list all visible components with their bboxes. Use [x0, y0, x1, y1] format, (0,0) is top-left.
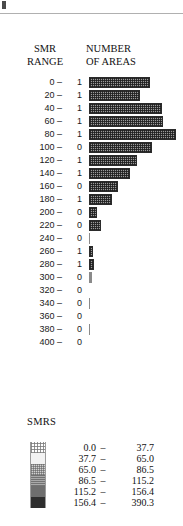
histogram-bar	[89, 77, 150, 88]
smr-range-header: SMR RANGE	[14, 42, 76, 68]
smr-range-label: 80 –	[0, 128, 62, 141]
histogram-bar	[89, 324, 90, 335]
histogram-bar	[89, 90, 140, 101]
bar-track	[89, 77, 183, 88]
bar-track	[89, 142, 183, 153]
bar-track	[89, 90, 183, 101]
smr-range-label: 180 –	[0, 193, 62, 206]
area-count-label: 0	[64, 141, 82, 154]
area-count-label: 1	[64, 89, 82, 102]
legend-range-dash: –	[96, 442, 110, 453]
legend-range-to: 115.2	[110, 475, 154, 486]
legend-range-dash: –	[96, 464, 110, 475]
bar-track	[89, 129, 183, 140]
area-count-label: 0	[64, 206, 82, 219]
histogram-bar	[89, 142, 152, 153]
legend-title: SMRS	[27, 416, 56, 427]
legend-range-dash: –	[96, 486, 110, 497]
histogram-bar	[89, 207, 97, 218]
histogram-row: 20 –1	[0, 89, 183, 102]
legend-swatch-column	[30, 442, 46, 508]
legend-range-to: 37.7	[110, 442, 154, 453]
smr-range-label: 20 –	[0, 89, 62, 102]
smr-range-label: 320 –	[0, 284, 62, 297]
area-count-label: 0	[64, 297, 82, 310]
figure-root: SMR RANGE NUMBER OF AREAS 0 –120 –140 –1…	[0, 0, 183, 526]
legend-class-row: 156.4–390.3	[52, 497, 183, 508]
smr-range-label: 340 –	[0, 297, 62, 310]
histogram-row: 360 –0	[0, 310, 183, 323]
histogram-rows: 0 –120 –140 –160 –180 –1100 –0120 –1140 …	[0, 76, 183, 349]
legend-range-from: 37.7	[52, 453, 96, 464]
bar-track	[89, 298, 183, 309]
smr-range-label: 140 –	[0, 167, 62, 180]
bar-track	[89, 155, 183, 166]
smr-range-header-line1: SMR	[14, 42, 76, 55]
histogram-row: 40 –1	[0, 102, 183, 115]
bar-track	[89, 116, 183, 127]
smr-range-label: 160 –	[0, 180, 62, 193]
legend-swatch	[30, 475, 46, 486]
smr-range-label: 100 –	[0, 141, 62, 154]
area-count-label: 1	[64, 154, 82, 167]
legend-class-row: 0.0–37.7	[52, 442, 183, 453]
area-count-label: 0	[64, 336, 82, 349]
bar-track	[89, 220, 183, 231]
histogram-row: 120 –1	[0, 154, 183, 167]
area-count-label: 1	[64, 193, 82, 206]
histogram-row: 320 –0	[0, 284, 183, 297]
histogram-row: 340 –0	[0, 297, 183, 310]
legend-range-to: 156.4	[110, 486, 154, 497]
area-count-label: 0	[64, 271, 82, 284]
page-corner-mark	[2, 1, 6, 9]
bar-track	[89, 337, 183, 348]
bar-track	[89, 246, 183, 257]
legend-class-row: 37.7–65.0	[52, 453, 183, 464]
number-of-areas-header-line1: NUMBER	[86, 42, 178, 55]
smr-range-label: 380 –	[0, 323, 62, 336]
histogram-bar	[89, 298, 90, 309]
legend-swatch	[30, 453, 46, 464]
legend-range-from: 65.0	[52, 464, 96, 475]
histogram-bar	[89, 116, 163, 127]
smr-range-label: 300 –	[0, 271, 62, 284]
histogram-bar	[89, 181, 118, 192]
bar-track	[89, 207, 183, 218]
histogram-row: 180 –1	[0, 193, 183, 206]
area-count-label: 1	[64, 128, 82, 141]
bar-track	[89, 194, 183, 205]
histogram-bar	[89, 272, 92, 283]
smr-range-label: 200 –	[0, 206, 62, 219]
histogram-row: 400 –0	[0, 336, 183, 349]
legend-swatch	[30, 497, 46, 508]
histogram-row: 160 –0	[0, 180, 183, 193]
histogram-row: 280 –1	[0, 258, 183, 271]
histogram-row: 300 –0	[0, 271, 183, 284]
histogram-row: 380 –0	[0, 323, 183, 336]
number-of-areas-header-line2: OF AREAS	[86, 55, 178, 68]
area-count-label: 0	[64, 323, 82, 336]
legend-swatch	[30, 486, 46, 497]
smr-range-label: 360 –	[0, 310, 62, 323]
bar-track	[89, 181, 183, 192]
bar-track	[89, 272, 183, 283]
legend-range-dash: –	[96, 475, 110, 486]
legend-range-to: 86.5	[110, 464, 154, 475]
legend-swatch	[30, 464, 46, 475]
legend-range-to: 390.3	[110, 497, 154, 508]
legend-range-dash: –	[96, 497, 110, 508]
bar-track	[89, 285, 183, 296]
smr-range-header-line2: RANGE	[14, 55, 76, 68]
histogram-bar	[89, 220, 101, 231]
histogram-bar	[89, 246, 93, 257]
histogram-row: 260 –1	[0, 245, 183, 258]
area-count-label: 0	[64, 232, 82, 245]
legend-range-to: 65.0	[110, 453, 154, 464]
histogram-bar	[89, 194, 112, 205]
legend-range-from: 86.5	[52, 475, 96, 486]
legend-swatch	[30, 442, 46, 453]
bar-track	[89, 233, 183, 244]
histogram-bar	[89, 259, 94, 270]
area-count-label: 1	[64, 258, 82, 271]
smr-range-label: 120 –	[0, 154, 62, 167]
